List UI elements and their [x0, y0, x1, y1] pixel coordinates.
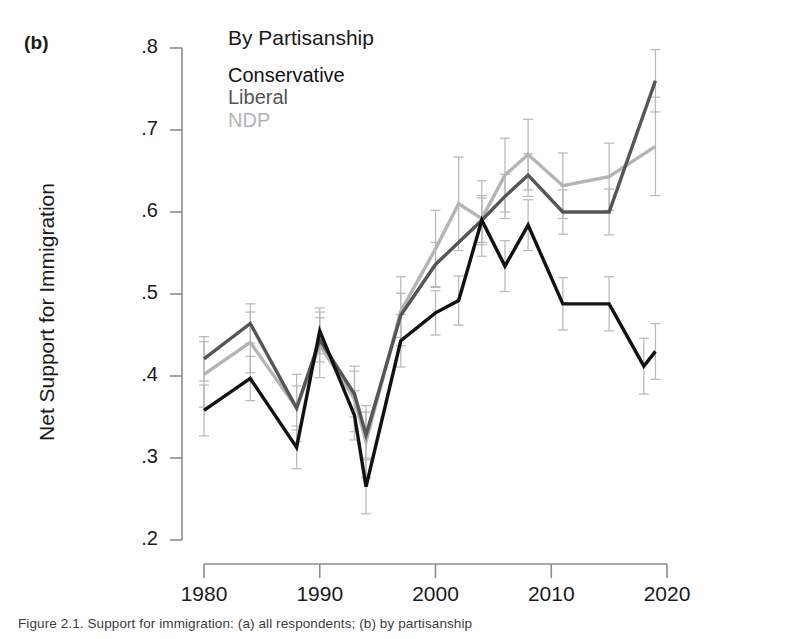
- y-axis-label: Net Support for Immigration: [35, 147, 59, 477]
- y-tick-label-0: .2: [112, 527, 158, 550]
- x-tick-label-3: 2010: [508, 582, 594, 606]
- legend-item-conservative: Conservative: [228, 64, 374, 86]
- series-line-ndp: [204, 146, 655, 441]
- legend-item-liberal: Liberal: [228, 86, 374, 108]
- x-tick-label-2: 2000: [393, 582, 479, 606]
- y-tick-label-3: .5: [112, 281, 158, 304]
- x-tick-label-1: 1990: [277, 582, 363, 606]
- y-tick-label-6: .8: [112, 35, 158, 58]
- x-tick-label-0: 1980: [161, 582, 247, 606]
- y-tick-label-4: .6: [112, 199, 158, 222]
- legend-title: By Partisanship: [228, 26, 374, 50]
- y-tick-label-1: .3: [112, 445, 158, 468]
- x-tick-label-4: 2020: [624, 582, 710, 606]
- figure-caption: Figure 2.1. Support for immigration: (a)…: [18, 616, 472, 631]
- legend-item-ndp: NDP: [228, 109, 374, 131]
- y-tick-label-5: .7: [112, 117, 158, 140]
- figure-panel-b: (b) Net Support for Immigration By Parti…: [0, 0, 789, 639]
- legend: By Partisanship Conservative Liberal NDP: [228, 26, 374, 131]
- panel-label: (b): [24, 32, 49, 54]
- y-tick-label-2: .4: [112, 363, 158, 386]
